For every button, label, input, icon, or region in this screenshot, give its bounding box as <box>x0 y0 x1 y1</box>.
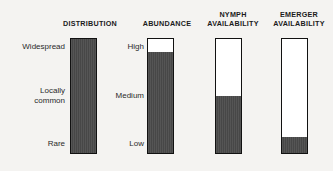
scale-label-locally-common: Locally common <box>2 86 65 106</box>
scale-label-widespread: Widespread <box>2 42 65 52</box>
bar-fill-distribution <box>71 39 96 153</box>
bar-abundance <box>147 38 174 154</box>
availability-gauge-chart: DISTRIBUTION ABUNDANCE NYMPH AVAILABILIT… <box>0 0 333 171</box>
scale-label-rare: Rare <box>2 139 65 149</box>
column-header-distribution: DISTRIBUTION <box>49 19 131 28</box>
scale-label-medium: Medium <box>100 91 144 101</box>
scale-label-low: Low <box>108 139 144 149</box>
scale-label-high: High <box>108 42 144 52</box>
bar-distribution <box>70 38 97 154</box>
bar-fill-nymph-availability <box>216 96 241 153</box>
column-header-emerger-availability: EMERGER AVAILABILITY <box>266 10 332 28</box>
bar-fill-emerger-availability <box>282 137 307 153</box>
column-header-abundance: ABUNDANCE <box>131 19 203 28</box>
bar-emerger-availability <box>281 38 308 154</box>
bar-fill-abundance <box>148 52 173 153</box>
column-header-nymph-availability: NYMPH AVAILABILITY <box>200 10 266 28</box>
bar-nymph-availability <box>215 38 242 154</box>
